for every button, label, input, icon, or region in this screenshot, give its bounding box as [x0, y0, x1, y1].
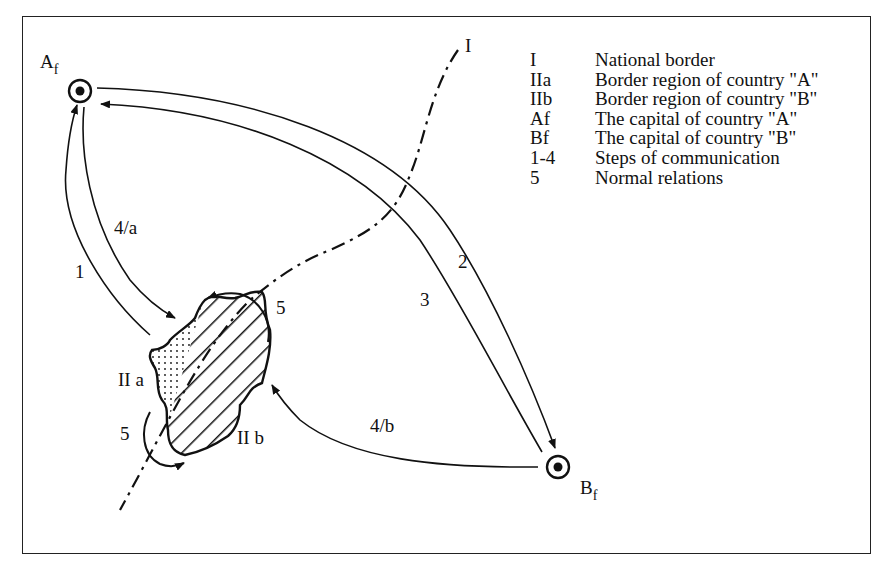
arrow-step-4a	[83, 107, 175, 318]
legend: INational border IIaBorder region of cou…	[530, 50, 818, 187]
step-4a-label: 4/a	[114, 218, 137, 237]
capital-a-label: Af	[40, 52, 58, 71]
legend-item: IIbBorder region of country "B"	[530, 89, 818, 109]
legend-item: BfThe capital of country "B"	[530, 128, 818, 148]
capital-b-marker	[547, 456, 569, 478]
normal-relations-top-label: 5	[276, 298, 286, 317]
capital-b-label: Bf	[580, 478, 597, 497]
arrow-step-4b	[272, 385, 538, 467]
step-2-label: 2	[458, 252, 468, 271]
step-3-label: 3	[420, 290, 430, 309]
step-1-label: 1	[75, 262, 85, 281]
normal-relations-bottom-label: 5	[120, 424, 130, 443]
region-iib-label: II b	[237, 428, 264, 447]
legend-item: AfThe capital of country "A"	[530, 109, 818, 129]
legend-item: 5Normal relations	[530, 168, 818, 188]
legend-item: INational border	[530, 50, 818, 70]
legend-item: 1-4Steps of communication	[530, 148, 818, 168]
capital-a-marker	[69, 80, 91, 102]
step-4b-label: 4/b	[370, 416, 394, 435]
national-border-label: I	[465, 36, 471, 55]
legend-item: IIaBorder region of country "A"	[530, 70, 818, 90]
arrow-step-1	[66, 105, 150, 335]
region-iia-label: II a	[118, 370, 144, 389]
